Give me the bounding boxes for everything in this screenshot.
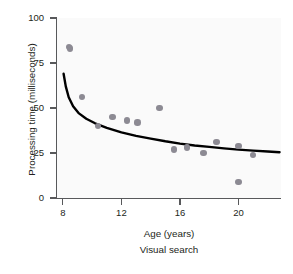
y-axis-title: Processing time (milliseconds) (26, 17, 37, 203)
data-point (124, 117, 130, 123)
data-point (213, 139, 219, 145)
data-point (109, 114, 115, 120)
data-point (235, 179, 241, 185)
data-point (250, 152, 256, 158)
scatter-plot-figure: 0255075100 8121620 Processing time (mill… (0, 0, 293, 274)
data-point (134, 119, 140, 125)
data-point (95, 123, 101, 129)
data-point (184, 144, 190, 150)
data-point (200, 150, 206, 156)
data-point (235, 143, 241, 149)
data-point (171, 146, 177, 152)
data-point (79, 94, 85, 100)
data-point (156, 105, 162, 111)
x-axis-title: Age (years) (57, 228, 281, 239)
data-point (67, 45, 73, 51)
figure-caption: Visual search (57, 244, 281, 255)
